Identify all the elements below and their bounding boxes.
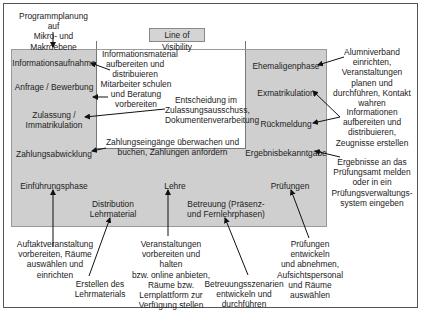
arrow-exmatrikulation xyxy=(313,91,340,117)
arrow-alumni xyxy=(318,57,344,65)
arrow-payments xyxy=(92,148,106,151)
arrow-info-material xyxy=(91,63,110,70)
arrow-exams xyxy=(291,190,309,238)
arrow-rueckmeldung xyxy=(313,117,340,123)
arrows-layer xyxy=(0,0,423,312)
arrow-ergebnis xyxy=(315,151,340,157)
arrow-support xyxy=(225,218,248,275)
arrow-materials xyxy=(89,218,110,276)
arrow-admission xyxy=(85,109,165,117)
